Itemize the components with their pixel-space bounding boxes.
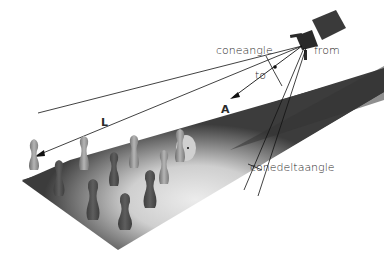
coneangle-label: coneangle xyxy=(216,45,273,56)
from-label: from xyxy=(314,45,340,56)
to-point xyxy=(273,65,277,69)
to-label: to xyxy=(255,70,266,81)
bowling-lane xyxy=(22,66,384,250)
spotlight-diagram xyxy=(0,0,384,273)
truncated-caption xyxy=(28,266,218,273)
axis-label-a: A xyxy=(221,104,230,115)
light-direction-label-l: L xyxy=(101,117,108,128)
conedeltaangle-label: conedeltaangle xyxy=(250,162,335,173)
